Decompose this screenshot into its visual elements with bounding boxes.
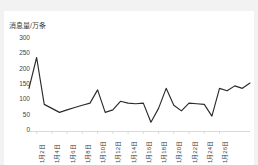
x-tick-label: 1月4日 (54, 144, 60, 163)
x-tick-label: 1月2日 (39, 144, 45, 163)
x-tick-label: 1月26日 (222, 141, 228, 163)
x-tick-label: 1月6日 (70, 144, 76, 163)
chart-container: 消息量/万条 300 250 200 150 100 50 0 1月2日1月4日… (0, 0, 258, 165)
x-tick-label: 1月14日 (131, 141, 137, 163)
x-axis-tick-labels: 1月2日1月4日1月6日1月8日1月10日1月12日1月14日1月16日1月18… (0, 134, 258, 165)
x-tick-label: 1月12日 (115, 141, 121, 163)
x-tick-label: 1月16日 (146, 141, 152, 163)
x-tick-label: 1月18日 (161, 141, 167, 163)
series-line-message-volume (29, 58, 250, 123)
x-tick-label: 1月20日 (176, 141, 182, 163)
x-tick-label: 1月24日 (207, 141, 213, 163)
x-tick-label: 1月22日 (192, 141, 198, 163)
x-tick-label: 1月8日 (85, 144, 91, 163)
x-tick-label: 1月10日 (100, 141, 106, 163)
